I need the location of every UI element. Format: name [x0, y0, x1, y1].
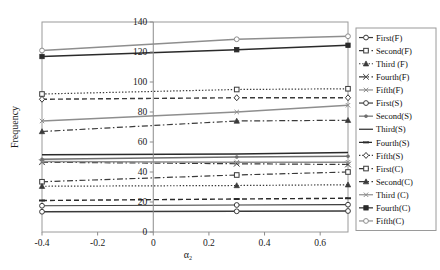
- data-point-marker: [346, 170, 351, 175]
- series-line: [42, 98, 348, 100]
- series-line: [42, 105, 348, 121]
- series-third--f: [39, 182, 350, 189]
- legend-label: Third (C): [376, 190, 409, 200]
- series-line: [42, 205, 348, 206]
- legend-label: Third(S): [376, 124, 406, 134]
- legend-box: First(F)Second(F)Third (F)Fourth(F)Fifth…: [356, 28, 436, 231]
- series-line: [42, 45, 348, 56]
- data-point-marker: [345, 95, 350, 101]
- data-point-marker: [364, 219, 369, 224]
- legend-item-fourth-c[interactable]: Fourth(C): [359, 203, 411, 213]
- data-point-marker: [346, 43, 350, 47]
- data-point-marker: [235, 156, 238, 159]
- series-fourth-f: [39, 159, 351, 167]
- data-point-marker: [364, 166, 369, 171]
- data-point-marker: [39, 96, 44, 102]
- series-second-s: [41, 155, 350, 161]
- series-fifth-c: [40, 34, 351, 53]
- series-line: [42, 156, 348, 159]
- y-tick-label: 80: [138, 107, 148, 117]
- data-point-marker: [347, 155, 350, 158]
- legend-item-fifth-s[interactable]: Fifth(S): [359, 151, 403, 161]
- series-fourth-c: [40, 43, 350, 59]
- data-point-marker: [234, 173, 239, 178]
- x-tick-label: -0.4: [34, 238, 49, 248]
- x-tick-label: 0.6: [314, 238, 326, 248]
- legend-item-first-s[interactable]: First(S): [359, 98, 402, 108]
- legend-label: Fourth(F): [376, 72, 410, 82]
- data-point-marker: [235, 48, 239, 52]
- frequency-line-chart: 020406080100120140-0.4-0.200.20.40.6α₂Fr…: [0, 0, 440, 270]
- series-line: [42, 172, 348, 182]
- legend-label: First(C): [376, 164, 403, 174]
- data-point-marker: [346, 202, 351, 207]
- data-point-marker: [346, 209, 351, 214]
- y-tick-label: 60: [138, 137, 148, 147]
- legend-label: Fourth(C): [376, 203, 411, 213]
- legend-item-fifth-f[interactable]: Fifth(F): [359, 85, 403, 95]
- data-point-marker: [364, 101, 369, 106]
- legend-label: Third (F): [376, 59, 408, 69]
- data-point-marker: [365, 115, 368, 118]
- legend-item-third--c[interactable]: Third (C): [359, 190, 409, 200]
- data-point-marker: [40, 209, 45, 214]
- legend-item-second-f[interactable]: Second(F): [359, 46, 412, 56]
- series-line: [42, 162, 348, 163]
- data-point-marker: [40, 54, 44, 58]
- series-fourth-s: [39, 198, 351, 200]
- legend-label: Fourth(S): [376, 138, 410, 148]
- legend-item-fourth-s[interactable]: Fourth(S): [359, 138, 410, 148]
- series-line: [42, 89, 348, 94]
- series-line: [42, 185, 348, 187]
- y-tick-label: 40: [138, 167, 148, 177]
- data-point-marker: [41, 158, 44, 161]
- series-first-f: [40, 209, 351, 215]
- y-tick-label: 140: [133, 17, 148, 27]
- data-point-marker: [40, 48, 45, 53]
- data-point-marker: [40, 92, 45, 97]
- legend-label: Fifth(C): [376, 216, 404, 226]
- data-point-marker: [234, 203, 239, 208]
- y-tick-label: 120: [133, 47, 148, 57]
- series-first-c: [40, 86, 351, 96]
- legend-item-second-c[interactable]: Second(C): [359, 177, 413, 187]
- series-third-s: [42, 153, 348, 155]
- data-point-marker: [364, 206, 368, 210]
- series-line: [42, 198, 348, 200]
- legend-item-third--f[interactable]: Third (F): [359, 59, 408, 69]
- x-tick-label: 0.2: [203, 238, 215, 248]
- data-point-marker: [234, 37, 239, 42]
- data-point-marker: [346, 34, 351, 39]
- series-line: [42, 211, 348, 212]
- legend-item-second-s[interactable]: Second(S): [359, 111, 412, 121]
- legend-label: Second(C): [376, 177, 413, 187]
- legend-item-fifth-c[interactable]: Fifth(C): [359, 216, 404, 226]
- chart-canvas: 020406080100120140-0.4-0.200.20.40.6α₂Fr…: [0, 0, 440, 270]
- legend-item-fourth-f[interactable]: Fourth(F): [359, 72, 410, 82]
- legend-item-first-c[interactable]: First(C): [359, 164, 403, 174]
- data-point-marker: [363, 152, 368, 158]
- data-point-marker: [364, 48, 369, 53]
- legend-item-first-f[interactable]: First(F): [359, 33, 402, 43]
- legend-label: Second(S): [376, 111, 412, 121]
- axis-group: 020406080100120140-0.4-0.200.20.40.6α₂Fr…: [9, 17, 326, 260]
- legend-label: Fifth(F): [376, 85, 403, 95]
- data-point-marker: [363, 61, 368, 66]
- y-axis-title: Frequency: [9, 106, 20, 148]
- series-line: [42, 153, 348, 155]
- plot-area: [42, 22, 348, 232]
- series-third--c: [40, 103, 350, 123]
- x-tick-label: 0.4: [259, 238, 271, 248]
- series-group: [39, 34, 351, 214]
- y-tick-label: 100: [133, 77, 148, 87]
- series-second-f: [40, 170, 351, 184]
- x-axis-title: α₂: [184, 249, 193, 260]
- series-first-s: [40, 202, 351, 208]
- legend-label: Fifth(S): [376, 151, 403, 161]
- y-tick-label: 0: [143, 227, 148, 237]
- data-point-marker: [234, 95, 239, 101]
- legend-label: First(F): [376, 33, 402, 43]
- x-tick-label: 0: [151, 238, 156, 248]
- series-line: [42, 120, 348, 131]
- legend-item-third-s[interactable]: Third(S): [359, 124, 406, 134]
